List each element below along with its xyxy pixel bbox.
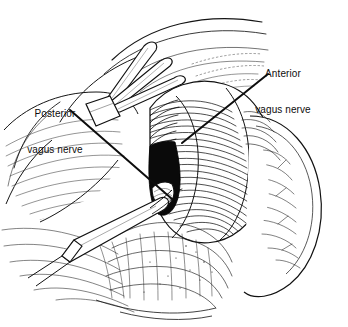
- posterior-vagus-nerve-label: Posterior vagus nerve: [12, 84, 98, 180]
- posterior-label-line2: vagus nerve: [12, 144, 98, 156]
- surgical-illustration-figure: Anterior vagus nerve Posterior vagus ner…: [0, 0, 348, 327]
- posterior-label-line1: Posterior: [12, 108, 98, 120]
- anterior-label-line1: Anterior: [242, 68, 324, 80]
- anterior-vagus-nerve-label: Anterior vagus nerve: [242, 44, 324, 140]
- anterior-label-line2: vagus nerve: [242, 104, 324, 116]
